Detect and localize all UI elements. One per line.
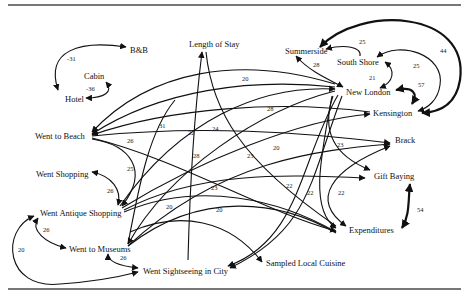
node-cabin: Cabin xyxy=(84,71,105,81)
node-length-of-stay: Length of Stay xyxy=(189,39,240,49)
edge-antique-museums xyxy=(36,218,66,248)
node-went-antique-shopping: Went Antique Shopping xyxy=(40,208,122,218)
edge-shopping-antique xyxy=(92,172,119,205)
edge-label: 22 xyxy=(307,189,314,196)
edge-label: 22 xyxy=(188,129,195,136)
edge-museums-expend xyxy=(128,206,336,246)
node-expenditures: Expenditures xyxy=(349,225,394,235)
edge-label: 20 xyxy=(216,206,223,213)
edge-label: -31 xyxy=(67,55,76,62)
nodes: B&B Cabin Hotel Length of Stay Summersid… xyxy=(35,39,416,276)
edge-label: 26 xyxy=(43,226,50,233)
edge-label: 25 xyxy=(359,38,366,45)
edge-label: 23 xyxy=(247,152,254,159)
edge-antique-expend xyxy=(124,196,336,232)
edge-label: 25 xyxy=(127,165,134,172)
node-bnb: B&B xyxy=(130,45,148,55)
node-gift-buying: Gift Baying xyxy=(374,171,415,181)
edge-newlondon-kensington xyxy=(396,89,415,104)
node-new-london: New London xyxy=(346,87,391,97)
edge-southshore-kensington xyxy=(377,50,440,111)
edge-brack-expend xyxy=(328,146,390,226)
edge-newlondon-expend xyxy=(320,96,336,228)
edge-stay-2 xyxy=(206,52,336,226)
edge-label: 24 xyxy=(212,125,219,132)
node-hotel: Hotel xyxy=(65,94,85,104)
path-diagram: B&B Cabin Hotel Length of Stay Summersid… xyxy=(0,0,470,292)
edge-label: 25 xyxy=(413,62,420,69)
node-brack: Brack xyxy=(395,135,416,145)
edge-label: 20 xyxy=(18,246,25,253)
node-went-to-museums: Went to Museums xyxy=(69,244,131,254)
edge-giftbuying-expenditures xyxy=(402,184,410,228)
node-went-shopping: Went Shopping xyxy=(36,169,89,179)
edge-label: 23 xyxy=(211,184,218,191)
edge-label: 26 xyxy=(120,254,127,261)
edge-label: 21 xyxy=(369,74,376,81)
edge-label: 22 xyxy=(286,182,293,189)
edge-label: 31 xyxy=(159,122,166,129)
node-summerside: Summerside xyxy=(285,46,328,56)
edge-bnb-hotel xyxy=(55,45,126,90)
edge-southshore-summerside xyxy=(326,47,360,56)
edge-newlondon-sight-1 xyxy=(228,95,338,266)
edge-summerside-newlondon xyxy=(296,56,343,87)
edge-label: 26 xyxy=(127,137,134,144)
edge-label: 26 xyxy=(107,187,114,194)
edge-label: 20 xyxy=(166,203,173,210)
node-south-shore: South Shore xyxy=(337,57,379,67)
edge-label: 44 xyxy=(440,47,447,54)
node-sampled-local-cuisine: Sampled Local Cuisine xyxy=(266,258,346,268)
node-kensington: Kensington xyxy=(373,108,413,118)
edge-label: 54 xyxy=(417,206,424,213)
edge-label: 20 xyxy=(273,144,280,151)
edge-southshore-newlondon xyxy=(380,62,392,88)
edge-label: -36 xyxy=(86,85,95,92)
edge-label: 28 xyxy=(267,105,274,112)
edge-newlondon-beach-1 xyxy=(92,70,335,132)
edge-label: 57 xyxy=(418,81,425,88)
edge-label: 20 xyxy=(242,75,249,82)
node-went-sightseeing-in-city: Went Sightseeing in City xyxy=(143,266,229,276)
edge-label: 22 xyxy=(338,189,345,196)
edge-label: 28 xyxy=(193,152,200,159)
edge-label: 28 xyxy=(313,61,320,68)
node-went-to-beach: Went to Beach xyxy=(35,131,86,141)
edge-label: 23 xyxy=(337,141,344,148)
edge-newlondon-gift xyxy=(329,96,370,170)
